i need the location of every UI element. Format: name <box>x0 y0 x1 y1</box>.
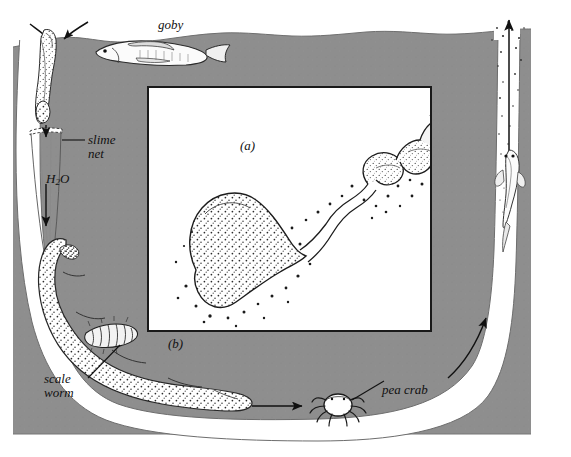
panel-label-a: (a) <box>240 139 255 153</box>
label-water-h: H <box>46 171 55 186</box>
label-water: H2O <box>46 172 69 188</box>
panel-label-b: (b) <box>168 337 183 351</box>
burrow-diagram <box>0 0 571 457</box>
label-pea-crab: pea crab <box>382 383 428 397</box>
label-scale-worm: scale worm <box>44 372 74 400</box>
inset-panel-a <box>148 87 473 331</box>
label-slime-net: slime net <box>88 133 115 161</box>
label-goby: goby <box>158 18 183 32</box>
label-water-o: O <box>60 171 69 186</box>
figure-canvas: goby slime net H2O scale worm pea crab (… <box>0 0 571 457</box>
